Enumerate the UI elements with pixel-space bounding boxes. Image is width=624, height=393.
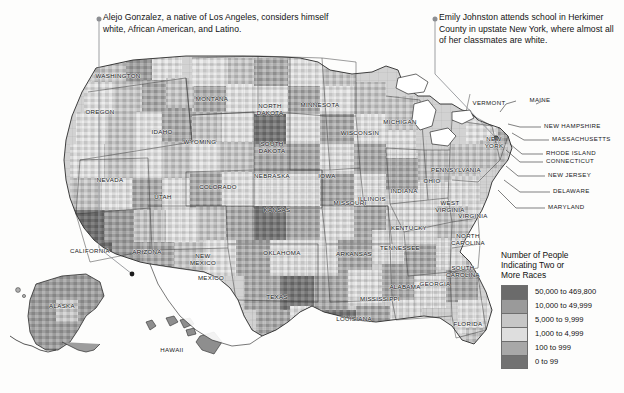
emily-callout-dot (433, 17, 438, 22)
legend-rows: 50,000 to 469,80010,000 to 49,9995,000 t… (501, 285, 621, 369)
los-angeles-marker (130, 272, 135, 277)
legend-label: 50,000 to 469,800 (535, 287, 596, 296)
legend-swatch (501, 341, 528, 355)
legend-item: 5,000 to 9,999 (501, 313, 621, 327)
map-legend: Number of People Indicating Two or More … (501, 250, 621, 369)
legend-label: 1,000 to 4,999 (535, 329, 584, 338)
annotation-emily: Emily Johnston attends school in Herkime… (439, 12, 617, 47)
legend-label: 10,000 to 49,999 (535, 301, 592, 310)
annotation-alejo: Alejo Gonzalez, a native of Los Angeles,… (103, 12, 335, 35)
legend-swatch (501, 299, 528, 313)
alejo-callout-dot (97, 17, 102, 22)
legend-title: Number of People Indicating Two or More … (501, 250, 621, 281)
legend-swatch (501, 313, 528, 327)
legend-label: 100 to 999 (535, 343, 571, 352)
legend-label: 5,000 to 9,999 (535, 315, 584, 324)
legend-swatch (501, 327, 528, 341)
legend-label: 0 to 99 (535, 357, 558, 366)
legend-item: 10,000 to 49,999 (501, 299, 621, 313)
legend-swatch (501, 355, 528, 369)
legend-swatch (501, 285, 528, 299)
legend-item: 50,000 to 469,800 (501, 285, 621, 299)
herkimer-county-marker (494, 136, 499, 141)
legend-item: 0 to 99 (501, 355, 621, 369)
legend-item: 1,000 to 4,999 (501, 327, 621, 341)
map-figure: Alejo Gonzalez, a native of Los Angeles,… (0, 0, 624, 393)
legend-item: 100 to 999 (501, 341, 621, 355)
